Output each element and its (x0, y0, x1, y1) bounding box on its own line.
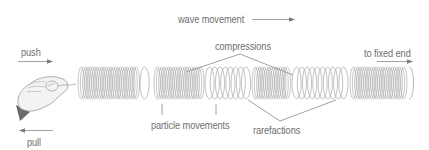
particle-movement-ticks (162, 104, 216, 115)
compressions-label: compressions (215, 41, 271, 52)
spring-coil (297, 67, 306, 99)
spring-coil (231, 67, 240, 99)
spring-coil (221, 67, 230, 99)
spring-coil (302, 67, 311, 99)
spring-coil (236, 67, 245, 99)
pull-label: pull (27, 137, 41, 148)
rarefactions-pointer-lines (248, 100, 336, 121)
hand-holding-spring-icon (16, 77, 76, 121)
spring-coil (210, 67, 219, 99)
spring-coil (323, 67, 332, 99)
particle-movements-label: particle movements (151, 120, 230, 131)
spring-coil (318, 67, 327, 99)
spring-coil (308, 67, 317, 99)
to-fixed-end-label: to fixed end (364, 48, 411, 59)
spring-coil (292, 67, 301, 99)
spring-coil (334, 67, 343, 99)
spring-coil (328, 67, 337, 99)
compressions-pointer-lines (186, 54, 293, 75)
spring-coil (241, 67, 250, 99)
spring-coil (205, 67, 214, 99)
longitudinal-wave-diagram: wave movement push compressions to fixed… (0, 0, 429, 150)
spring-coil (226, 67, 235, 99)
spring-end-cap (409, 67, 414, 99)
push-label: push (21, 47, 41, 58)
spring-coil (339, 67, 348, 99)
wave-movement-label: wave movement (178, 14, 244, 25)
rarefactions-label: rarefactions (253, 125, 300, 136)
spring-coil (140, 67, 149, 99)
spring-coil (313, 67, 322, 99)
spring-coil (215, 67, 224, 99)
spring-coils (78, 67, 414, 99)
